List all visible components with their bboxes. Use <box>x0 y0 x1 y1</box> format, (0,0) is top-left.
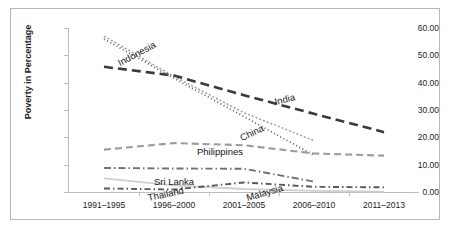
series-line-india <box>104 67 384 132</box>
series-line-philippines <box>104 143 384 156</box>
chart-plot <box>11 9 452 230</box>
series-label-philippines: Philippines <box>197 146 243 157</box>
series-line-sri-lanka <box>104 168 314 182</box>
chart-frame: Poverty in Percentage 0.0010.0020.0030.0… <box>10 8 440 220</box>
